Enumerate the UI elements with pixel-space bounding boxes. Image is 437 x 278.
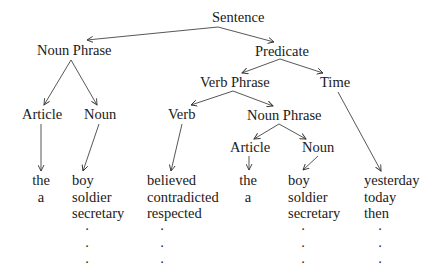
dot: · bbox=[375, 255, 385, 272]
edge-sentence-predicate bbox=[218, 27, 274, 42]
leaf-word: boy bbox=[288, 172, 340, 189]
leaves-time: yesterday today then bbox=[364, 172, 420, 222]
leaf-word: soldier bbox=[72, 189, 124, 206]
leaf-word: boy bbox=[72, 172, 124, 189]
edge-vp-verb bbox=[191, 91, 233, 105]
leaves-verb: believed contradicted respected bbox=[147, 172, 219, 222]
edge-np2-article bbox=[254, 124, 279, 139]
ellipsis-noun-subject: · · · bbox=[82, 222, 92, 272]
leaves-noun-subject: boy soldier secretary bbox=[72, 172, 124, 222]
dot: · bbox=[82, 239, 92, 256]
edge-np2-noun bbox=[279, 124, 306, 139]
node-noun-object: Noun bbox=[302, 139, 334, 155]
dot: · bbox=[157, 255, 167, 272]
leaves-noun-object: boy soldier secretary bbox=[288, 172, 340, 222]
leaf-word: a bbox=[238, 189, 258, 206]
dot: · bbox=[375, 222, 385, 239]
edge-predicate-vp bbox=[242, 59, 280, 73]
dot: · bbox=[157, 222, 167, 239]
leaf-word: contradicted bbox=[147, 189, 219, 206]
edge-sentence-nounphrase bbox=[87, 27, 218, 40]
node-noun-subject: Noun bbox=[84, 106, 116, 122]
edge-predicate-time bbox=[280, 59, 323, 73]
leaf-word: secretary bbox=[72, 205, 124, 222]
ellipsis-verb: · · · bbox=[157, 222, 167, 272]
dot: · bbox=[298, 239, 308, 256]
leaf-word: the bbox=[31, 172, 51, 189]
leaf-word: soldier bbox=[288, 189, 340, 206]
dot: · bbox=[82, 222, 92, 239]
leaf-word: the bbox=[238, 172, 258, 189]
leaf-word: respected bbox=[147, 205, 219, 222]
node-verb: Verb bbox=[168, 106, 195, 122]
node-noun-phrase-subject: Noun Phrase bbox=[37, 42, 112, 58]
node-predicate: Predicate bbox=[255, 43, 309, 59]
node-sentence: Sentence bbox=[212, 9, 264, 25]
edge-noun-leaves bbox=[83, 124, 99, 171]
edge-time-leaves bbox=[338, 92, 381, 171]
dot: · bbox=[82, 255, 92, 272]
dot: · bbox=[375, 239, 385, 256]
leaf-word: secretary bbox=[288, 205, 340, 222]
ellipsis-time: · · · bbox=[375, 222, 385, 272]
node-article-object: Article bbox=[230, 139, 270, 155]
leaf-word: believed bbox=[147, 172, 219, 189]
leaf-word: then bbox=[364, 205, 420, 222]
node-verb-phrase: Verb Phrase bbox=[200, 74, 270, 90]
node-time: Time bbox=[320, 74, 350, 90]
node-noun-phrase-object: Noun Phrase bbox=[247, 107, 322, 123]
edge-np-article bbox=[44, 60, 71, 105]
leaf-word: a bbox=[31, 189, 51, 206]
dot: · bbox=[157, 239, 167, 256]
leaf-word: yesterday bbox=[364, 172, 420, 189]
leaves-article-subject: the a bbox=[31, 172, 51, 205]
ellipsis-noun-object: · · · bbox=[298, 222, 308, 272]
dot: · bbox=[298, 255, 308, 272]
edge-vp-np bbox=[233, 91, 273, 106]
dot: · bbox=[298, 222, 308, 239]
edge-np-noun bbox=[71, 60, 97, 105]
leaf-word: today bbox=[364, 189, 420, 206]
node-article-subject: Article bbox=[22, 106, 62, 122]
edge-noun2-leaves bbox=[303, 156, 318, 170]
edge-verb-leaves bbox=[171, 124, 182, 171]
leaves-article-object: the a bbox=[238, 172, 258, 205]
